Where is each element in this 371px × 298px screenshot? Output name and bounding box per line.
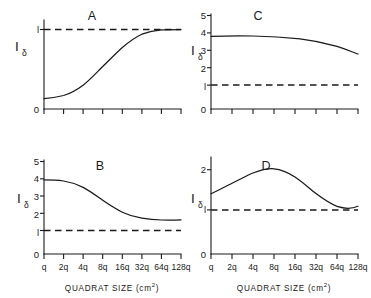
- panel-a-ytick-1: l: [37, 24, 39, 35]
- x-axis-title-right-close: ): [328, 284, 331, 293]
- panel-b-xtick-label-1: 2q: [59, 262, 69, 272]
- panel-d-letter: D: [261, 159, 270, 173]
- panel-d-ytick-marks: [207, 170, 211, 210]
- x-axis-title-left-text: QUADRAT SIZE (cm: [65, 284, 152, 293]
- panel-b-ytick-1: l: [37, 227, 39, 238]
- panel-b-xtick-labels: q 2q 4q 8q 16q 32q 64q 128q: [42, 262, 191, 272]
- panel-b-ytick-marks: [40, 162, 44, 231]
- panel-a-letter: A: [88, 9, 97, 23]
- panel-c-ytick-3: 3: [201, 45, 206, 56]
- figure-panel-grid: A I δ l 0: [0, 0, 371, 298]
- panel-c-ytick-4: 4: [201, 27, 206, 38]
- panel-b-xtick-label-7: 128q: [172, 262, 191, 272]
- x-axis-title-right: QUADRAT SIZE (cm2): [237, 282, 331, 293]
- panel-d: D I δ 2 l 0: [191, 157, 368, 272]
- panel-a: A I δ l 0: [15, 9, 181, 115]
- panel-b-ytick-3: 3: [34, 191, 39, 202]
- panel-d-xtick-label-7: 128q: [349, 262, 368, 272]
- panel-c-ytick-0: 0: [201, 104, 206, 115]
- panel-b-ytick-5: 5: [34, 156, 39, 167]
- panel-b-xtick-label-5: 32q: [135, 262, 149, 272]
- panel-b: B I δ 5 4 3 2 l 0: [17, 156, 191, 272]
- panel-c-ytick-marks: [207, 16, 211, 86]
- panel-d-curve: [211, 169, 358, 209]
- panel-c: C I δ 5 4 3 2 l 0: [191, 9, 358, 115]
- panel-d-xtick-label-5: 32q: [309, 262, 323, 272]
- panel-d-xtick-label-0: q: [209, 262, 214, 272]
- panel-d-xtick-labels: q 2q 4q 8q 16q 32q 64q 128q: [209, 262, 368, 272]
- panel-d-xticks: [211, 254, 358, 259]
- panel-b-xtick-label-6: 64q: [154, 262, 168, 272]
- panel-b-xtick-label-0: q: [42, 262, 47, 272]
- panel-d-y-axis-label-sub: δ: [198, 200, 203, 210]
- panel-b-xtick-label-4: 16q: [115, 262, 129, 272]
- panel-b-xticks: [44, 254, 181, 259]
- panel-d-xtick-label-1: 2q: [227, 262, 237, 272]
- x-axis-title-left-close: ): [156, 284, 159, 293]
- x-axis-title-right-text: QUADRAT SIZE (cm: [237, 284, 324, 293]
- panel-a-xticks: [44, 109, 181, 114]
- panel-b-ytick-4: 4: [34, 173, 39, 184]
- panel-b-ytick-2: 2: [34, 209, 39, 220]
- panel-b-letter: B: [96, 159, 104, 173]
- panel-d-ytick-2: 2: [201, 164, 206, 175]
- figure-svg: A I δ l 0: [0, 0, 371, 298]
- panel-c-ytick-1: l: [204, 81, 206, 92]
- panel-b-y-axis-label: I: [17, 191, 21, 206]
- panel-c-curve: [211, 36, 358, 54]
- x-axis-title-left: QUADRAT SIZE (cm2): [65, 282, 159, 293]
- panel-a-ytick-0: 0: [34, 104, 39, 115]
- panel-d-xtick-label-6: 64q: [330, 262, 344, 272]
- panel-d-ytick-0: 0: [201, 249, 206, 260]
- panel-d-y-axis-label: I: [191, 191, 195, 206]
- panel-b-y-axis-label-sub: δ: [24, 200, 29, 210]
- panel-d-xtick-label-2: 4q: [248, 262, 258, 272]
- panel-b-xtick-label-3: 8q: [98, 262, 108, 272]
- panel-b-curve: [44, 180, 181, 220]
- panel-c-letter: C: [253, 9, 262, 23]
- panel-c-xticks: [211, 109, 358, 114]
- panel-c-ytick-5: 5: [201, 10, 206, 21]
- panel-b-xtick-label-2: 4q: [78, 262, 88, 272]
- panel-c-y-axis-label: I: [191, 43, 195, 58]
- panel-c-ytick-2: 2: [201, 63, 206, 74]
- panel-b-ytick-0: 0: [34, 249, 39, 260]
- panel-a-y-axis-label: I: [15, 39, 19, 54]
- panel-d-xtick-label-3: 8q: [269, 262, 279, 272]
- panel-a-y-axis-label-sub: δ: [22, 48, 27, 58]
- panel-a-curve: [44, 30, 181, 99]
- panel-d-ytick-1: l: [204, 204, 206, 215]
- panel-d-xtick-label-4: 16q: [288, 262, 302, 272]
